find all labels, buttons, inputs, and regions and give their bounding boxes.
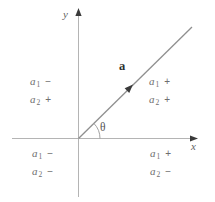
component-sign-line: a1− (32, 146, 53, 164)
component-symbol: a (149, 75, 155, 87)
component-sign-line: a2+ (149, 92, 170, 110)
angle-label: θ (100, 122, 106, 133)
component-symbol: a (150, 147, 156, 159)
component-symbol: a (150, 165, 156, 177)
component-subscript: 2 (157, 170, 161, 179)
component-subscript: 2 (156, 98, 160, 107)
quadrant-1-signs: a1+ a2+ (149, 74, 170, 110)
component-symbol: a (30, 93, 36, 105)
component-sign: + (164, 94, 170, 105)
component-sign-line: a1+ (149, 74, 170, 92)
component-subscript: 2 (39, 170, 43, 179)
quadrant-3-signs: a1− a2− (32, 146, 53, 182)
y-axis-arrowhead-icon (75, 8, 81, 16)
quadrant-2-signs: a1− a2+ (30, 74, 51, 110)
component-subscript: 1 (37, 80, 41, 89)
component-symbol: a (149, 93, 155, 105)
component-subscript: 2 (37, 98, 41, 107)
component-subscript: 1 (39, 152, 43, 161)
vector-line (79, 27, 193, 139)
component-symbol: a (32, 147, 38, 159)
vector-components-diagram: y x a θ a1− a2+ a1+ a2+ a1− a2− a1+ (0, 0, 215, 202)
x-axis-label: x (191, 141, 196, 152)
component-sign: − (47, 166, 53, 177)
component-symbol: a (32, 165, 38, 177)
component-sign-line: a2+ (30, 92, 51, 110)
component-sign-line: a2− (32, 164, 53, 182)
component-sign-line: a2− (150, 164, 171, 182)
component-symbol: a (30, 75, 36, 87)
component-sign-line: a1+ (150, 146, 171, 164)
component-sign: + (164, 76, 170, 87)
component-subscript: 1 (157, 152, 161, 161)
vector-label: a (119, 61, 125, 72)
component-sign-line: a1− (30, 74, 51, 92)
component-sign: + (165, 148, 171, 159)
component-sign: − (165, 166, 171, 177)
quadrant-4-signs: a1+ a2− (150, 146, 171, 182)
y-axis-label: y (63, 9, 68, 20)
component-sign: − (47, 148, 53, 159)
component-sign: − (45, 76, 51, 87)
component-subscript: 1 (156, 80, 160, 89)
component-sign: + (45, 94, 51, 105)
